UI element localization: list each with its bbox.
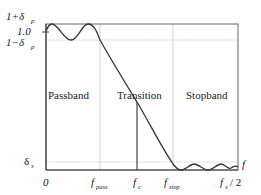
x-label-origin: 0: [43, 176, 49, 188]
svg-text:s: s: [31, 162, 34, 170]
svg-text:c: c: [138, 183, 142, 191]
x-label-nyquist: f s / 2: [220, 176, 241, 191]
filter-response-diagram: 1+δ p 1.0 1−δ p δ s Passband Transition …: [0, 0, 261, 195]
x-label-fstop: f stop: [164, 176, 181, 190]
svg-text:/ 2: / 2: [230, 176, 241, 188]
x-label-fpass: f pass: [91, 176, 108, 190]
y-label-stop: δ s: [24, 155, 34, 170]
svg-text:1+δ: 1+δ: [6, 10, 25, 22]
y-label-lower: 1−δ p: [6, 36, 35, 51]
svg-text:p: p: [30, 17, 35, 25]
svg-text:stop: stop: [169, 183, 181, 190]
svg-text:s: s: [225, 183, 228, 191]
svg-text:pass: pass: [95, 183, 108, 190]
svg-text:1−δ: 1−δ: [6, 36, 25, 48]
region-transition: Transition: [117, 89, 162, 101]
x-label-fc: f c: [133, 176, 142, 191]
x-axis-label: f: [242, 158, 247, 170]
svg-text:p: p: [30, 43, 35, 51]
y-label-upper: 1+δ p: [6, 10, 35, 25]
svg-text:δ: δ: [24, 155, 29, 167]
region-stopband: Stopband: [186, 89, 228, 101]
region-passband: Passband: [48, 89, 89, 101]
